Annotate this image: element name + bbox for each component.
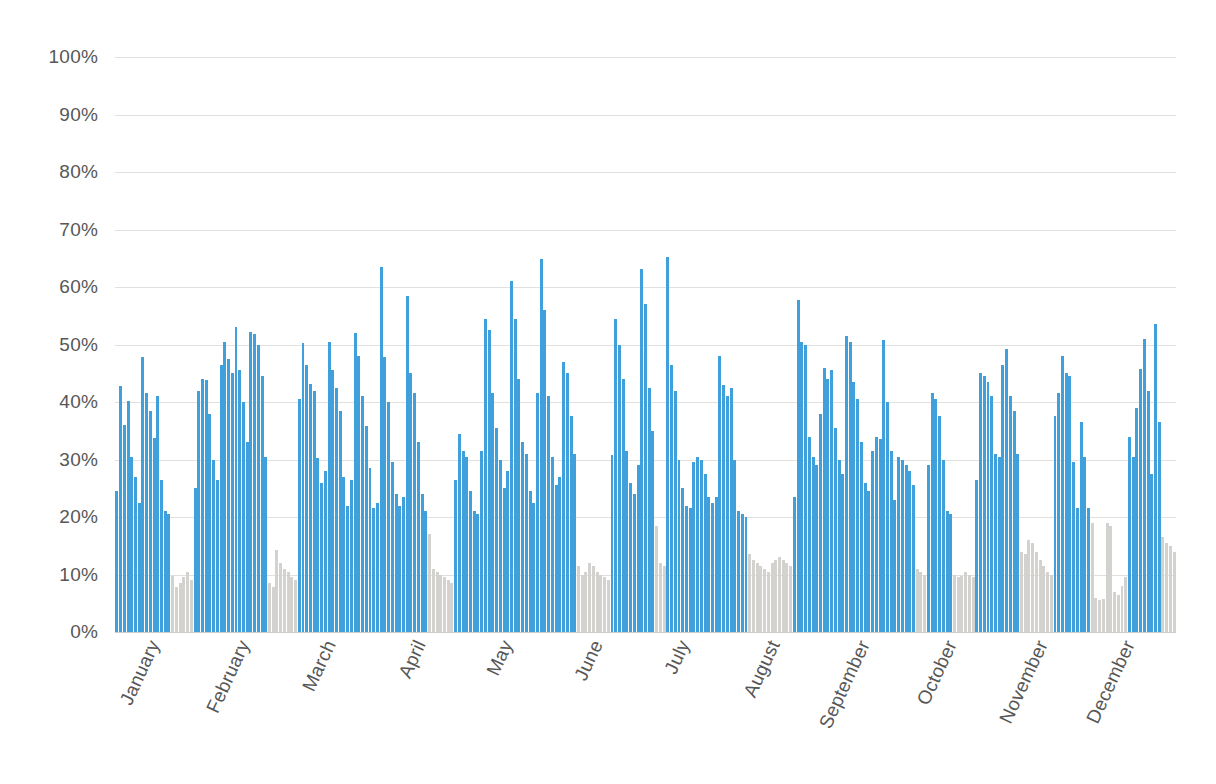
- bar: [722, 385, 725, 632]
- bar: [726, 396, 729, 632]
- bar: [599, 575, 602, 633]
- bar: [867, 491, 870, 632]
- bar: [197, 391, 200, 633]
- bar: [570, 416, 573, 632]
- bar: [331, 370, 334, 632]
- bar: [975, 480, 978, 632]
- bar: [309, 384, 312, 632]
- plot-area: [115, 57, 1176, 632]
- bar: [127, 401, 130, 632]
- bar: [1154, 324, 1157, 632]
- bar: [1113, 592, 1116, 632]
- bar: [998, 457, 1001, 632]
- bar: [573, 454, 576, 632]
- bar: [130, 457, 133, 632]
- bar: [890, 451, 893, 632]
- bar: [346, 506, 349, 633]
- bar: [1087, 508, 1090, 632]
- bar: [577, 566, 580, 632]
- bar: [663, 566, 666, 632]
- bar: [510, 281, 513, 632]
- bar: [1039, 560, 1042, 632]
- bar: [718, 356, 721, 632]
- y-axis-tick-label: 70%: [0, 219, 98, 241]
- bar: [439, 575, 442, 633]
- bar: [923, 575, 926, 633]
- bar: [696, 457, 699, 632]
- bar: [462, 451, 465, 632]
- y-axis-tick-label: 10%: [0, 564, 98, 586]
- bar: [882, 340, 885, 632]
- bar: [644, 304, 647, 632]
- bar: [1124, 577, 1127, 632]
- bar: [968, 575, 971, 633]
- x-axis-tick-label: October: [911, 636, 960, 708]
- bar: [1061, 356, 1064, 632]
- bar: [711, 503, 714, 632]
- bar: [350, 480, 353, 632]
- bar: [469, 491, 472, 632]
- bar: [1139, 369, 1142, 632]
- bar: [503, 488, 506, 632]
- bar: [186, 572, 189, 632]
- bar: [443, 577, 446, 632]
- bar: [871, 451, 874, 632]
- bar: [558, 477, 561, 632]
- bar: [756, 563, 759, 632]
- bar: [886, 402, 889, 632]
- x-axis-tick-label: July: [658, 636, 693, 677]
- bar: [994, 454, 997, 632]
- bar: [156, 396, 159, 632]
- bar: [153, 438, 156, 632]
- bar: [167, 514, 170, 632]
- chart-container: 0%10%20%30%40%50%60%70%80%90%100% Januar…: [0, 0, 1216, 784]
- bar: [588, 563, 591, 632]
- bar: [990, 396, 993, 632]
- x-axis: JanuaryFebruaryMarchAprilMayJuneJulyAugu…: [115, 636, 1176, 784]
- bar: [681, 488, 684, 632]
- x-axis-tick-label: April: [392, 636, 428, 681]
- bar: [529, 491, 532, 632]
- bar: [525, 454, 528, 632]
- bar: [584, 572, 587, 632]
- bar: [1065, 373, 1068, 632]
- bar: [919, 572, 922, 632]
- bar: [242, 402, 245, 632]
- bar: [1027, 540, 1030, 632]
- bar: [380, 267, 383, 632]
- bar: [432, 569, 435, 632]
- bar: [819, 414, 822, 633]
- bar: [1072, 462, 1075, 632]
- bar: [1132, 457, 1135, 632]
- bar: [208, 414, 211, 633]
- bar: [339, 411, 342, 632]
- bar: [369, 468, 372, 632]
- bar: [782, 560, 785, 632]
- bar: [841, 474, 844, 632]
- bar: [934, 399, 937, 632]
- bar: [581, 575, 584, 633]
- y-axis-tick-label: 0%: [0, 621, 98, 643]
- y-axis-tick-label: 60%: [0, 276, 98, 298]
- bar: [704, 474, 707, 632]
- bar: [905, 465, 908, 632]
- bar: [1094, 598, 1097, 633]
- x-axis-tick-label: January: [113, 636, 162, 708]
- bar: [1102, 599, 1105, 632]
- bar: [160, 480, 163, 632]
- bar: [1016, 454, 1019, 632]
- bar: [480, 451, 483, 632]
- bar: [700, 460, 703, 633]
- bar: [268, 583, 271, 632]
- y-axis-tick-label: 30%: [0, 449, 98, 471]
- bar: [912, 485, 915, 632]
- bar: [745, 517, 748, 632]
- bar: [283, 569, 286, 632]
- bar: [1169, 546, 1172, 632]
- bar: [253, 334, 256, 632]
- bar: [205, 380, 208, 632]
- bar: [957, 577, 960, 632]
- bar: [953, 575, 956, 633]
- bar: [279, 563, 282, 632]
- bar: [897, 457, 900, 632]
